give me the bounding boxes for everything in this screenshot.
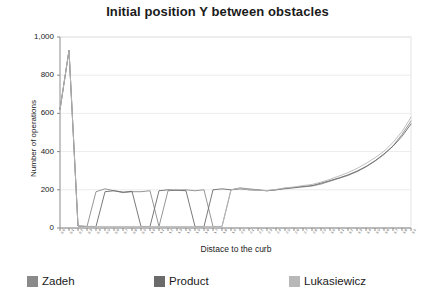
series-line	[60, 50, 411, 226]
chart-legend: Zadeh Product Lukasiewicz	[0, 272, 435, 294]
y-axis-tick-label: 0	[14, 223, 54, 232]
legend-swatch-icon	[27, 276, 38, 287]
y-axis-tick-label: 400	[14, 147, 54, 156]
y-axis-tick-label: 600	[14, 108, 54, 117]
y-axis-title: Number of operations	[29, 84, 38, 194]
series-line	[60, 50, 411, 226]
y-axis-tick-label: 200	[14, 185, 54, 194]
legend-label: Lukasiewicz	[304, 275, 366, 287]
plot-border	[60, 37, 411, 228]
series-line	[60, 50, 411, 226]
y-axis-tick-label: 1,000	[14, 32, 54, 41]
legend-label: Zadeh	[42, 275, 75, 287]
plot-frame	[60, 37, 411, 228]
legend-label: Product	[169, 275, 209, 287]
y-axis-tick-label: 800	[14, 70, 54, 79]
plot-area: Number of operations 02004006008001,000 …	[0, 30, 435, 240]
chart-title: Initial position Y between obstacles	[0, 4, 435, 19]
plot-canvas	[0, 30, 435, 240]
grid-lines	[60, 37, 411, 228]
legend-swatch-icon	[289, 276, 300, 287]
data-series-group	[60, 50, 411, 226]
legend-entry-lukasiewicz: Lukasiewicz	[289, 272, 366, 290]
legend-entry-zadeh: Zadeh	[27, 272, 75, 290]
x-axis-title: Distace to the curb	[60, 244, 412, 254]
chart-figure: Initial position Y between obstacles Num…	[0, 0, 435, 308]
legend-swatch-icon	[154, 276, 165, 287]
legend-entry-product: Product	[154, 272, 209, 290]
